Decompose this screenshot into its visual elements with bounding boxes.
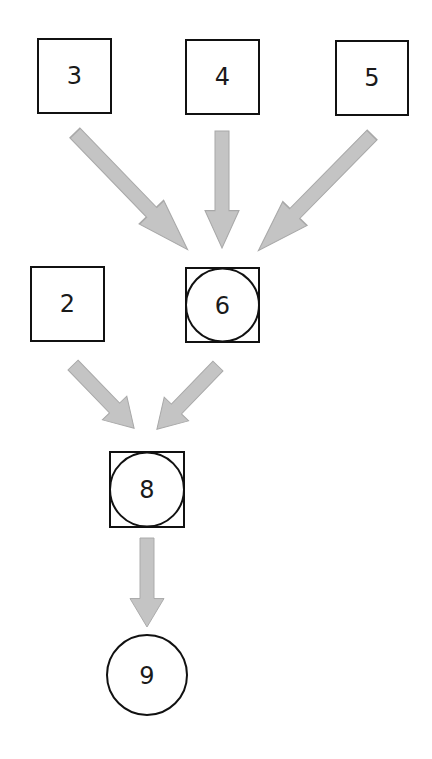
node-6: 6 — [186, 268, 259, 342]
node-8-label: 8 — [139, 476, 154, 504]
node-3: 3 — [38, 39, 111, 113]
arrow-4-to-6 — [205, 131, 239, 248]
node-6-label: 6 — [215, 292, 230, 320]
node-4: 4 — [186, 40, 259, 114]
node-5-label: 5 — [364, 64, 379, 92]
node-3-label: 3 — [67, 62, 82, 90]
node-8: 8 — [110, 452, 184, 527]
node-9: 9 — [107, 635, 187, 715]
node-2: 2 — [31, 267, 104, 341]
arrow-8-to-9 — [130, 538, 164, 627]
arrow-3-to-6 — [63, 121, 200, 261]
node-9-label: 9 — [139, 662, 154, 690]
flow-diagram: 3 4 5 2 6 8 9 — [0, 0, 432, 759]
node-5: 5 — [336, 41, 408, 115]
node-4-label: 4 — [215, 63, 230, 91]
arrow-6-to-8 — [145, 354, 231, 441]
node-2-label: 2 — [60, 290, 75, 318]
arrow-5-to-6 — [246, 123, 384, 262]
arrow-2-to-8 — [61, 353, 147, 440]
